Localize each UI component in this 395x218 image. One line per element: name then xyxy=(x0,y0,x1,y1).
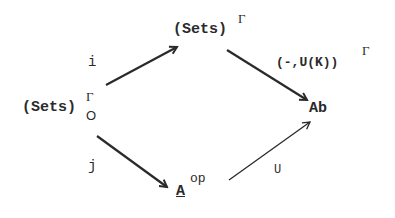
label-U: U xyxy=(274,164,281,176)
node-a-op-sup: op xyxy=(190,172,206,185)
arrow-i xyxy=(106,47,177,85)
label-i: i xyxy=(88,55,96,69)
arrow-U xyxy=(229,122,310,180)
label-hom: (-,U(K)) xyxy=(276,56,338,69)
node-ab: Ab xyxy=(309,101,327,116)
node-sets-gamma-o-sup: Γ xyxy=(86,90,94,103)
node-sets-gamma-o: (Sets) xyxy=(22,100,76,115)
commutative-diagram: (Sets) Γ O (Sets) Γ Ab A op i (-,U(K)) Γ… xyxy=(0,0,395,218)
label-hom-sup: Γ xyxy=(362,44,370,57)
label-j: j xyxy=(88,159,96,173)
arrow-j xyxy=(97,136,167,187)
node-sets-gamma: (Sets) xyxy=(173,22,227,37)
node-a-op: A xyxy=(176,184,185,199)
node-sets-gamma-sup: Γ xyxy=(238,12,246,25)
node-sets-gamma-o-sub: O xyxy=(86,109,96,122)
